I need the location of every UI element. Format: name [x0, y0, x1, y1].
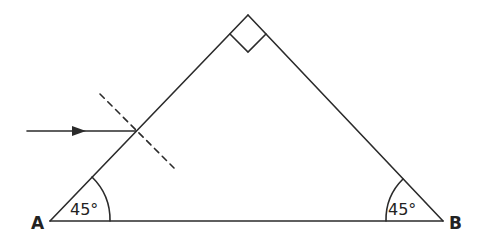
angle-label-b: 45° [388, 200, 416, 219]
vertex-label-a: A [31, 213, 45, 233]
arrowhead-icon [72, 126, 86, 136]
side-right [248, 15, 443, 221]
vertex-label-b: B [449, 213, 462, 233]
angle-label-a: 45° [70, 200, 98, 219]
prism-diagram: A B 45° 45° [0, 0, 485, 240]
side-left [50, 15, 248, 221]
right-angle-marker [230, 34, 266, 52]
